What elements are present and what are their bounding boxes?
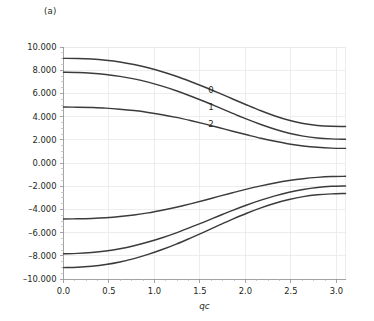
line-chart: –10.000–8.000–6.000–4.000–2.0000.0002.00…	[0, 0, 374, 321]
x-axis-tick-label: 2.0	[239, 286, 252, 296]
data-curve-1	[64, 72, 346, 139]
x-axis-tick-label: 2.5	[284, 286, 297, 296]
y-axis-tick-label: –10.000	[23, 274, 57, 284]
x-axis-tick-label: 1.0	[148, 286, 161, 296]
x-axis-tick-label: 1.5	[193, 286, 206, 296]
y-axis-tick-label: 8.000	[33, 65, 57, 75]
data-curve-2	[64, 107, 346, 148]
x-axis-title: qc	[199, 301, 210, 311]
curve-label-1: 1	[208, 102, 213, 112]
y-axis-tick-label: –2.000	[28, 181, 56, 191]
curve-label-0: 0	[208, 85, 213, 95]
axes-group: –10.000–8.000–6.000–4.000–2.0000.0002.00…	[23, 42, 346, 311]
x-axis-tick-label: 3.0	[330, 286, 343, 296]
x-axis-tick-label: 0.0	[57, 286, 70, 296]
y-axis-tick-label: 6.000	[33, 88, 57, 98]
x-axis-tick-label: 0.5	[102, 286, 115, 296]
y-axis-tick-label: –6.000	[28, 228, 56, 238]
figure-panel: (a) –10.000–8.000–6.000–4.000–2.0000.000…	[0, 0, 374, 321]
y-axis-tick-label: 10.000	[27, 42, 56, 52]
data-curve-5	[64, 194, 346, 268]
gridlines-group	[64, 47, 346, 279]
y-axis-tick-label: –4.000	[28, 204, 56, 214]
y-axis-tick-label: 0.000	[33, 158, 57, 168]
curve-label-2: 2	[208, 119, 213, 129]
data-curve-3	[64, 176, 346, 219]
labels-group: 012	[208, 85, 213, 129]
y-axis-tick-label: 4.000	[33, 112, 57, 122]
y-axis-tick-label: 2.000	[33, 135, 57, 145]
y-axis-tick-label: –8.000	[28, 251, 56, 261]
